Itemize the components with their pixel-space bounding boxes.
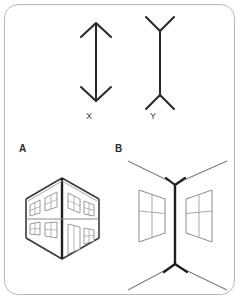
building-right-lower-window-1: [84, 228, 94, 244]
building-right-eave-line: [62, 181, 97, 201]
line-figure-x: [81, 23, 111, 101]
building-door: [68, 224, 80, 254]
room-right-wall-window: [186, 190, 212, 242]
building-left-lower-window-1: [30, 222, 40, 235]
label-line-figure-x: X: [86, 112, 92, 121]
room-top-corner-junction: [166, 178, 185, 185]
room-bottom-corner-junction: [164, 264, 187, 272]
line-figure-y: [146, 17, 174, 109]
label-scene-b: B: [115, 144, 122, 154]
scene-b-room: [128, 161, 227, 290]
building-right-upper-window-1: [68, 193, 80, 213]
building-left-upper-window-2: [45, 192, 57, 211]
building-base-left-edge: [26, 238, 62, 259]
room-left-wall-window: [139, 190, 165, 242]
figure-root: X Y A B: [0, 0, 241, 300]
building-right-upper-window-2: [84, 201, 94, 216]
label-line-figure-y: Y: [150, 112, 156, 121]
line-figure-y-bottom-fins: [146, 95, 174, 109]
building-left-upper-window-1: [30, 200, 40, 216]
scene-a-building: [26, 178, 99, 259]
building-left-lower-window-2: [45, 222, 57, 238]
label-scene-a: A: [19, 144, 26, 154]
line-figure-y-top-fins: [146, 17, 174, 31]
